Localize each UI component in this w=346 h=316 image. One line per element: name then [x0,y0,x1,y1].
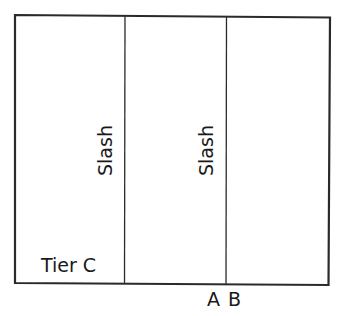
ab-label: A B [207,290,242,309]
outer-frame [15,15,330,285]
partition-diagram: Slash Slash Tier C A B [0,0,346,316]
slash-label-1: Slash [96,125,115,176]
tier-c-label: Tier C [41,256,96,275]
divider-1 [125,16,126,284]
divider-2 [226,17,227,285]
slash-label-2: Slash [197,125,216,176]
